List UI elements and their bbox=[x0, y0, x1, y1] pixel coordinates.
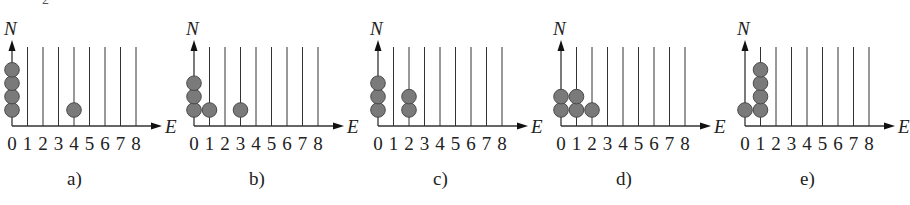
particle-ball bbox=[753, 89, 768, 104]
n-axis-arrow-icon bbox=[742, 40, 749, 51]
panel-label: e) bbox=[800, 168, 815, 190]
tick-label: 3 bbox=[784, 133, 800, 155]
particle-ball bbox=[753, 103, 768, 118]
n-axis-label: N bbox=[737, 18, 750, 40]
tick-label: 0 bbox=[737, 133, 753, 155]
tick-label: 6 bbox=[830, 133, 846, 155]
e-axis-label: E bbox=[898, 116, 910, 138]
tick-label: 2 bbox=[768, 133, 784, 155]
tick-label: 5 bbox=[815, 133, 831, 155]
particle-ball bbox=[738, 103, 753, 118]
diagram-panel-e: NE012345678e) bbox=[0, 0, 180, 205]
tick-label: 8 bbox=[861, 133, 877, 155]
tick-label: 7 bbox=[846, 133, 862, 155]
particle-ball bbox=[753, 76, 768, 91]
particle-ball bbox=[753, 63, 768, 78]
tick-label: 1 bbox=[753, 133, 769, 155]
e-axis-arrow-icon bbox=[884, 123, 895, 130]
tick-label: 4 bbox=[799, 133, 815, 155]
